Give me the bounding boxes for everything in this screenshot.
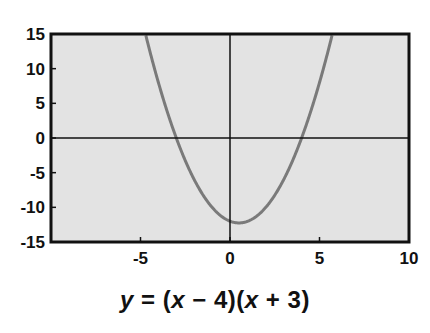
y-tick-label: 0 [36, 129, 45, 148]
y-tick-label: -10 [20, 198, 45, 217]
y-tick-label: 15 [26, 25, 45, 44]
x-axis-tick-labels: -50510 [133, 249, 419, 268]
y-tick-label: 5 [36, 94, 45, 113]
y-axis-tick-labels: 151050-5-10-15 [20, 25, 45, 252]
x-tick-label: 10 [400, 249, 419, 268]
x-tick-label: 0 [225, 249, 234, 268]
y-tick-label: -5 [30, 164, 45, 183]
y-tick-label: 10 [26, 60, 45, 79]
y-tick-label: -15 [20, 233, 45, 252]
equation-y: y [120, 286, 134, 313]
equation-x2: x [245, 286, 259, 313]
equation-part: − 4)( [185, 286, 245, 313]
x-tick-label: -5 [133, 249, 148, 268]
equation-x1: x [171, 286, 185, 313]
equation-caption: y = (x − 4)(x + 3) [0, 286, 430, 314]
x-tick-label: 5 [315, 249, 324, 268]
equation-part: + 3) [259, 286, 310, 313]
equation-part: = ( [134, 286, 171, 313]
parabola-chart: 151050-5-10-15 -50510 [0, 0, 430, 333]
